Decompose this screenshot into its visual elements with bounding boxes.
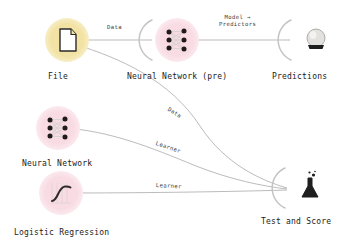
widget-label-file: File [48,72,68,81]
neural-network-icon [36,106,80,150]
sigmoid-curve-icon [39,171,83,215]
crystal-ball-icon [294,18,338,62]
link-label-file-to-neural-network-pre: Data [107,24,122,31]
file-document-icon [45,18,89,62]
link-label-file-to-test-and-score: Data [166,106,182,120]
widget-file[interactable] [45,18,89,62]
widget-label-neural-network-pre: Neural Network (pre) [127,72,227,81]
flask-icon [288,166,332,210]
link-label-neural-network-pre-to-predictions: Model → Predictors [219,14,256,28]
link-label-line-2: Predictors [219,21,256,28]
widget-label-logistic-regression: Logistic Regression [14,228,109,237]
widget-test-and-score[interactable] [288,166,332,210]
link-label-logistic-regression-to-test-and-score: Learner [156,182,182,190]
widget-neural-network-pre[interactable] [155,18,199,62]
link-neural-network-to-test-and-score [64,128,287,189]
neural-network-icon [155,18,199,62]
widget-predictions[interactable] [294,18,338,62]
widget-neural-network[interactable] [36,106,80,150]
link-logistic-regression-to-test-and-score [68,190,287,193]
widget-logistic-regression[interactable] [39,171,83,215]
widget-label-test-and-score: Test and Score [261,217,331,226]
link-label-neural-network-to-test-and-score: Learner [155,140,182,155]
input-arc-predictions [278,20,291,60]
link-label-line-1: Model → [219,14,256,21]
widget-label-predictions: Predictions [272,72,327,81]
widget-label-neural-network: Neural Network [22,159,92,168]
workflow-canvas[interactable]: File Neura [0,0,348,250]
input-arc-test-and-score [272,168,285,208]
input-arc-neural-network-pre [139,20,152,60]
